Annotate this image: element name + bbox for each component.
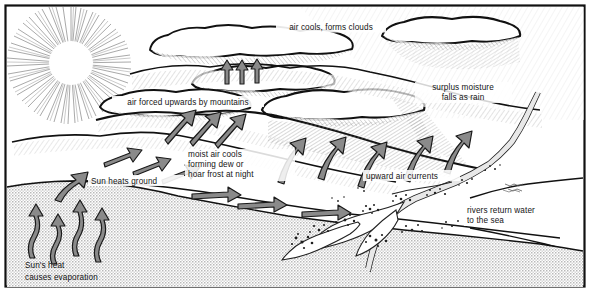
label-text-air-forced-upwards: air forced upwards by mountains	[127, 98, 248, 107]
label-text-upward-air-currents: upward air currents	[366, 172, 438, 181]
orographic-lift-arrows	[221, 59, 263, 84]
label-text-suns-heat-line1: Sun's heat	[25, 261, 65, 270]
label-air-cools-forms-clouds: air cools, forms clouds	[276, 22, 386, 33]
water-cycle-diagram: air cools, forms clouds surplus moisture…	[0, 0, 590, 292]
label-text-moist-air-line3: hoar frost at night	[188, 170, 254, 179]
label-text-surplus-moisture-line2: falls as rain	[442, 93, 485, 102]
label-moist-air-cools: moist air cools forming dew or hoar fros…	[185, 149, 295, 181]
label-text-air-cools-forms-clouds: air cools, forms clouds	[289, 23, 373, 32]
label-text-sun-heats-ground: Sun heats ground	[91, 177, 158, 186]
label-text-moist-air-line1: moist air cools	[188, 150, 242, 159]
diagram-canvas: air cools, forms clouds surplus moisture…	[0, 0, 590, 292]
label-air-forced-upwards-by-mountains: air forced upwards by mountains	[112, 96, 264, 107]
label-text-surplus-moisture-line1: surplus moisture	[432, 83, 494, 92]
label-text-moist-air-line2: forming dew or	[188, 160, 244, 169]
label-rivers-return-water-to-the-sea: rivers return water to the sea	[464, 205, 568, 226]
label-sun-heats-ground: Sun heats ground	[88, 175, 184, 186]
label-text-rivers-return-line2: to the sea	[467, 216, 504, 225]
label-text-suns-heat-line2: causes evaporation	[25, 273, 98, 282]
label-upward-air-currents: upward air currents	[363, 170, 460, 181]
label-surplus-moisture-falls-as-rain: surplus moisture falls as rain	[415, 82, 512, 103]
label-text-rivers-return-line1: rivers return water	[467, 206, 535, 215]
